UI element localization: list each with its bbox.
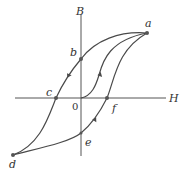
point-a bbox=[145, 31, 149, 35]
point-b bbox=[79, 57, 83, 61]
hysteresis-diagram: B H 0 a b c d e f bbox=[0, 0, 187, 175]
label-c: c bbox=[46, 86, 52, 99]
point-c bbox=[54, 96, 58, 100]
label-d: d bbox=[9, 158, 16, 171]
point-e bbox=[80, 132, 83, 135]
lower-branch-curve bbox=[13, 33, 147, 155]
label-e: e bbox=[85, 136, 92, 149]
h-axis-label: H bbox=[168, 92, 179, 105]
label-a: a bbox=[145, 17, 152, 30]
label-b: b bbox=[70, 46, 77, 59]
label-f: f bbox=[111, 102, 118, 115]
point-f bbox=[105, 96, 109, 100]
point-d bbox=[11, 153, 15, 157]
initial-magnetization-curve bbox=[81, 33, 147, 98]
b-axis-label: B bbox=[75, 5, 84, 18]
origin-label: 0 bbox=[72, 101, 78, 112]
